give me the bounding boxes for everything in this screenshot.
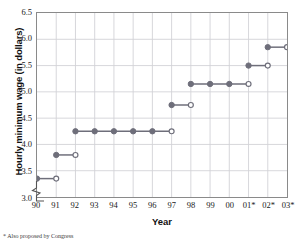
- data-point-closed: [130, 129, 135, 134]
- chart-footnote: * Also proposed by Congress: [3, 233, 73, 239]
- data-point-closed: [207, 81, 212, 86]
- data-point-closed: [111, 129, 116, 134]
- x-axis-tick-labels: 909192939495969798990001*02*03*: [36, 200, 288, 216]
- data-point-closed: [150, 129, 155, 134]
- y-tick-label: 4.0: [8, 139, 32, 149]
- data-point-open: [188, 103, 193, 108]
- x-tick-label: 03*: [273, 200, 297, 210]
- y-axis-break-icon: [28, 180, 44, 202]
- plot-area: [36, 12, 288, 198]
- y-tick-label: 5.5: [8, 60, 32, 70]
- data-point-closed: [265, 45, 270, 50]
- y-tick-label: 3.5: [8, 166, 32, 176]
- data-point-closed: [92, 129, 97, 134]
- chart-figure: Hourly minimum wage (in dollars) 3.03.54…: [0, 0, 297, 241]
- data-point-open: [265, 63, 270, 68]
- y-tick-label: 5.0: [8, 86, 32, 96]
- data-point-open: [285, 45, 287, 50]
- data-point-closed: [169, 102, 174, 107]
- data-point-open: [54, 176, 59, 181]
- data-point-open: [169, 129, 174, 134]
- y-tick-label: 6.5: [8, 7, 32, 17]
- data-point-open: [246, 81, 251, 86]
- y-tick-label: 4.5: [8, 113, 32, 123]
- data-point-closed: [246, 63, 251, 68]
- grid-and-series-layer: [37, 13, 287, 197]
- data-point-closed: [188, 81, 193, 86]
- data-point-closed: [73, 129, 78, 134]
- data-point-open: [73, 152, 78, 157]
- y-tick-label: 6.0: [8, 33, 32, 43]
- x-axis-title: Year: [36, 216, 288, 227]
- data-point-closed: [54, 152, 59, 157]
- data-point-closed: [227, 81, 232, 86]
